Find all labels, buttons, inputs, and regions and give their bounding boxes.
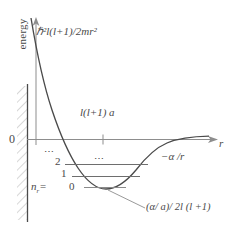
depth-leader-line: [108, 190, 145, 208]
centrifugal-position-label: l(l+1) a: [80, 106, 115, 118]
level-label-0: 0: [69, 180, 75, 192]
centrifugal-term-label: ℏ²l(l+1)/2mr²: [36, 25, 97, 38]
ellipsis-left: ⋯: [44, 146, 55, 157]
origin-label: 0: [9, 132, 15, 147]
ellipsis-middle: ⋯: [94, 153, 105, 164]
quantum-number-label: nr=: [31, 180, 47, 192]
y-axis-label: energy: [16, 4, 28, 64]
x-axis-label: r: [219, 137, 223, 149]
level-label-1: 1: [61, 167, 67, 179]
coulomb-tail-label: −α /r: [161, 150, 184, 162]
hatched-region: [17, 86, 27, 220]
potential-energy-diagram: energy ℏ²l(l+1)/2mr² l(l+1) a −α /r (α/ …: [0, 0, 234, 233]
quantum-number-equals: =: [39, 180, 46, 192]
well-depth-label: (α/ a)/ 2l (l +1): [146, 201, 211, 212]
level-label-2: 2: [55, 155, 61, 167]
